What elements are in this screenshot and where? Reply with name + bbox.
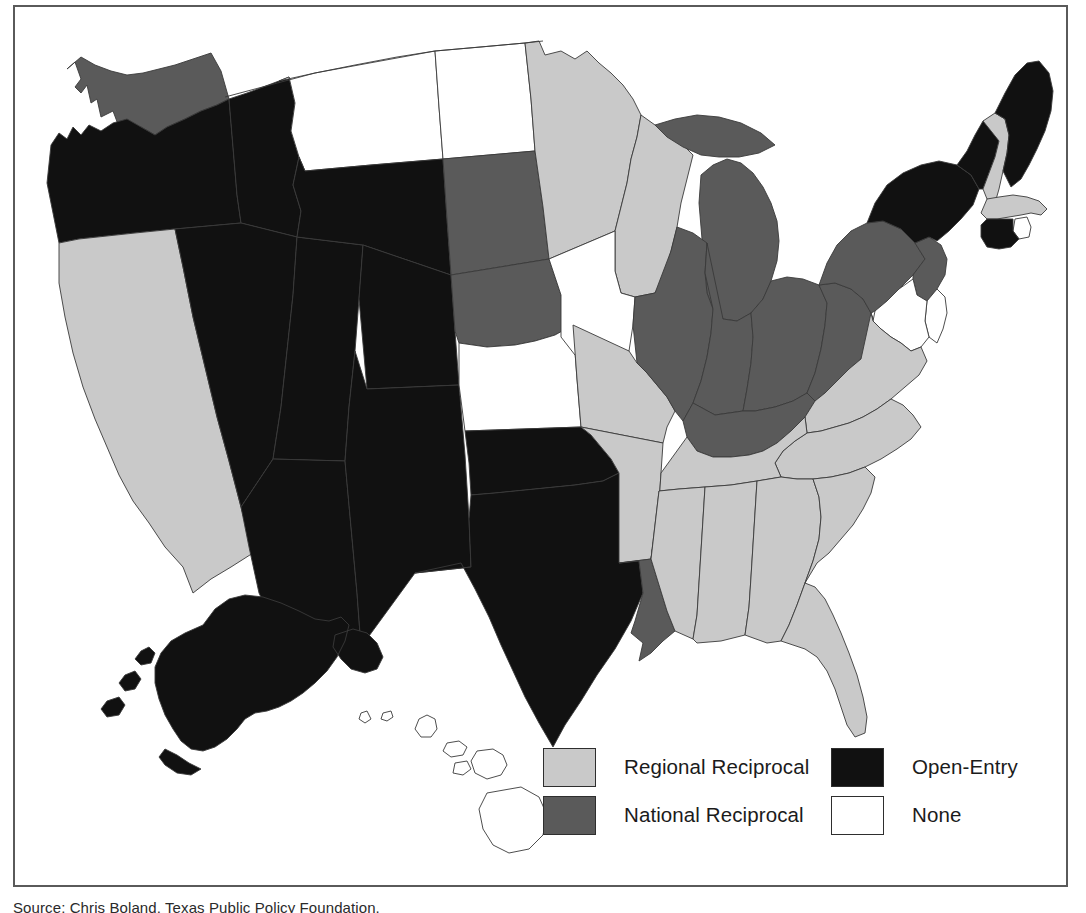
legend-label-open-entry: Open-Entry bbox=[912, 755, 1018, 779]
state-AK[interactable] bbox=[101, 595, 383, 775]
state-HI-5[interactable] bbox=[453, 761, 471, 775]
state-ND[interactable] bbox=[435, 43, 535, 159]
legend-column-left: Regional Reciprocal National Reciprocal bbox=[543, 743, 809, 839]
state-NJ[interactable] bbox=[913, 237, 947, 301]
state-HI-4[interactable] bbox=[443, 741, 467, 757]
figure-page: Regional Reciprocal National Reciprocal … bbox=[0, 0, 1086, 913]
legend-swatch-none-icon bbox=[831, 796, 884, 835]
state-SD[interactable] bbox=[443, 151, 549, 275]
figure-caption: Source: Chris Boland, Texas Public Polic… bbox=[13, 899, 1073, 913]
map-frame: Regional Reciprocal National Reciprocal … bbox=[13, 5, 1068, 887]
state-HI[interactable] bbox=[415, 715, 437, 737]
legend-label-national: National Reciprocal bbox=[624, 803, 804, 827]
legend-item-national[interactable]: National Reciprocal bbox=[543, 791, 809, 839]
legend-swatch-national-icon bbox=[543, 796, 596, 835]
legend-item-regional[interactable]: Regional Reciprocal bbox=[543, 743, 809, 791]
state-MA[interactable] bbox=[981, 195, 1047, 219]
state-CT[interactable] bbox=[981, 219, 1019, 249]
state-HI-6[interactable] bbox=[471, 749, 507, 779]
legend-item-open-entry[interactable]: Open-Entry bbox=[831, 743, 1018, 791]
legend-swatch-open-entry-icon bbox=[831, 748, 884, 787]
state-HI-3[interactable] bbox=[359, 711, 371, 723]
map-legend: Regional Reciprocal National Reciprocal … bbox=[543, 743, 1043, 839]
legend-label-regional: Regional Reciprocal bbox=[624, 755, 809, 779]
legend-label-none: None bbox=[912, 803, 961, 827]
state-ID[interactable] bbox=[229, 77, 301, 237]
state-HI-2[interactable] bbox=[381, 711, 393, 721]
state-HI-7[interactable] bbox=[479, 787, 547, 853]
state-MT[interactable] bbox=[279, 51, 443, 171]
legend-swatch-regional-icon bbox=[543, 748, 596, 787]
legend-item-none[interactable]: None bbox=[831, 791, 1018, 839]
legend-column-right: Open-Entry None bbox=[831, 743, 1018, 839]
state-NM[interactable] bbox=[345, 351, 471, 647]
